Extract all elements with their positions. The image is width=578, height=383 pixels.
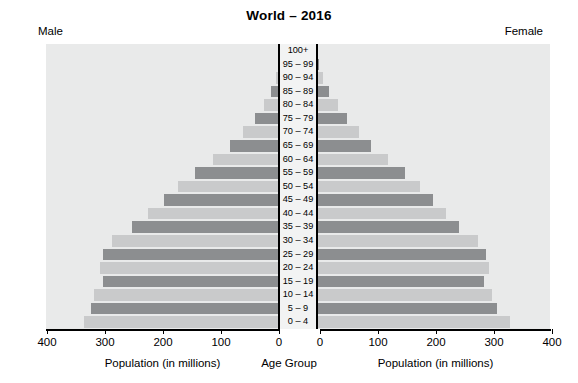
age-group-label: 10 – 14	[279, 288, 317, 302]
age-group-label: 15 – 19	[279, 275, 317, 289]
male-bar	[103, 276, 279, 288]
male-bar	[178, 181, 280, 193]
female-bar	[317, 181, 420, 193]
female-bar-row	[317, 58, 550, 72]
age-group-label: 5 – 9	[279, 302, 317, 316]
female-bar	[317, 208, 446, 220]
left-axis-tick	[279, 329, 280, 334]
age-group-label: 50 – 54	[279, 180, 317, 194]
female-bar-row	[317, 193, 550, 207]
age-group-label: 65 – 69	[279, 139, 317, 153]
age-group-label: 40 – 44	[279, 207, 317, 221]
female-bar-row	[317, 180, 550, 194]
male-bar-row	[46, 302, 279, 316]
female-bars-group	[317, 44, 550, 329]
right-axis-tick-label: 100	[355, 336, 401, 348]
male-bar-row	[46, 58, 279, 72]
male-bar	[213, 154, 279, 166]
right-axis-tick	[320, 329, 321, 334]
female-bar	[317, 221, 459, 233]
male-bar	[195, 167, 279, 179]
left-axis-tick-label: 100	[198, 336, 244, 348]
left-axis-tick-label: 400	[24, 336, 70, 348]
age-group-labels: 100+95 – 9990 – 9485 – 8980 – 8475 – 797…	[279, 44, 317, 329]
male-bar-row	[46, 248, 279, 262]
male-bar	[103, 249, 279, 261]
female-bar-row	[317, 220, 550, 234]
age-group-label: 60 – 64	[279, 153, 317, 167]
age-group-label: 35 – 39	[279, 220, 317, 234]
male-bar-row	[46, 98, 279, 112]
male-bar	[148, 208, 279, 220]
female-bar-row	[317, 248, 550, 262]
age-group-label: 30 – 34	[279, 234, 317, 248]
female-bar-row	[317, 44, 550, 58]
center-axis-caption: Age Group	[252, 357, 326, 369]
female-bar	[317, 113, 347, 125]
female-bar	[317, 99, 338, 111]
right-axis-tick-label: 0	[297, 336, 343, 348]
male-bar-row	[46, 207, 279, 221]
female-bar-row	[317, 98, 550, 112]
female-bar-row	[317, 166, 550, 180]
female-bar-row	[317, 234, 550, 248]
female-bar	[317, 167, 405, 179]
left-axis-tick	[105, 329, 106, 334]
female-bar	[317, 235, 478, 247]
chart-title: World – 2016	[0, 8, 578, 23]
left-axis-tick-label: 0	[256, 336, 302, 348]
age-group-label: 25 – 29	[279, 248, 317, 262]
male-bar-row	[46, 166, 279, 180]
right-axis-tick	[436, 329, 437, 334]
male-bar-row	[46, 234, 279, 248]
age-group-label: 45 – 49	[279, 193, 317, 207]
female-bar	[317, 194, 433, 206]
male-bar-row	[46, 139, 279, 153]
male-bar	[255, 113, 279, 125]
right-axis-tick	[378, 329, 379, 334]
age-group-label: 55 – 59	[279, 166, 317, 180]
male-bar	[132, 221, 279, 233]
age-group-label: 20 – 24	[279, 261, 317, 275]
female-bar-row	[317, 153, 550, 167]
right-axis-tick	[494, 329, 495, 334]
female-bar	[317, 154, 388, 166]
male-bar	[84, 316, 279, 328]
female-bar	[317, 249, 486, 261]
male-bar	[230, 140, 279, 152]
female-bar-row	[317, 112, 550, 126]
male-bar	[91, 303, 280, 315]
male-bar	[243, 126, 279, 138]
age-group-label: 75 – 79	[279, 112, 317, 126]
right-axis-tick-label: 200	[413, 336, 459, 348]
female-bar	[317, 126, 359, 138]
female-bar	[317, 140, 371, 152]
female-bar-row	[317, 85, 550, 99]
male-bar	[100, 262, 279, 274]
right-axis-spine	[316, 44, 318, 329]
age-group-label: 95 – 99	[279, 58, 317, 72]
left-axis-tick	[47, 329, 48, 334]
population-pyramid-chart: World – 2016 Male Female 100+95 – 9990 –…	[0, 0, 578, 383]
age-group-label: 0 – 4	[279, 315, 317, 329]
left-axis-tick-label: 200	[140, 336, 186, 348]
male-bar-row	[46, 112, 279, 126]
female-bar-row	[317, 207, 550, 221]
female-bar-row	[317, 71, 550, 85]
age-group-label: 70 – 74	[279, 125, 317, 139]
female-bar-row	[317, 125, 550, 139]
female-bar	[317, 289, 492, 301]
male-bars-group	[46, 44, 279, 329]
female-bar-row	[317, 139, 550, 153]
male-bar-row	[46, 193, 279, 207]
left-axis-spine	[278, 44, 280, 329]
female-bar-row	[317, 302, 550, 316]
male-bar-row	[46, 315, 279, 329]
female-bar-row	[317, 315, 550, 329]
male-bar-row	[46, 125, 279, 139]
right-axis-caption: Population (in millions)	[320, 357, 551, 369]
age-group-label: 85 – 89	[279, 85, 317, 99]
age-group-label: 100+	[279, 44, 317, 58]
left-axis-tick	[163, 329, 164, 334]
female-bar	[317, 86, 329, 98]
